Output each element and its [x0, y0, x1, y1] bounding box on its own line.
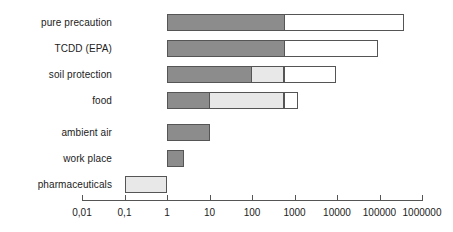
x-axis-tick-label: 10000	[323, 207, 351, 219]
x-axis-tick-label: 1	[164, 207, 170, 219]
x-axis-tick	[337, 195, 338, 201]
bar-segment-light	[209, 92, 285, 109]
x-axis-tick	[125, 195, 126, 201]
x-axis-tick	[82, 195, 83, 201]
bar-segment-open	[284, 40, 378, 57]
x-axis-tick	[252, 195, 253, 201]
bar-segment-light	[251, 66, 284, 83]
bar-segment-dark	[167, 92, 210, 109]
bar-row	[0, 14, 453, 31]
bar-segment-dark	[167, 14, 285, 31]
x-axis-tick-label: 100000	[363, 207, 396, 219]
x-axis-tick	[422, 195, 423, 201]
log-range-bar-chart: pure precautionTCDD (EPA)soil protection…	[0, 0, 453, 232]
bar-row	[0, 150, 453, 167]
bar-segment-light	[125, 176, 168, 193]
x-axis-tick-label: 10	[204, 207, 215, 219]
bar-segment-dark	[167, 124, 210, 141]
bar-segment-dark	[167, 150, 184, 167]
x-axis-tick-label: 1000	[283, 207, 305, 219]
bar-segment-dark	[167, 66, 252, 83]
x-axis-tick-label: 100	[244, 207, 261, 219]
bar-row	[0, 124, 453, 141]
x-axis-tick-label: 1000000	[403, 207, 442, 219]
bar-row	[0, 66, 453, 83]
bar-segment-open	[284, 92, 298, 109]
bar-segment-open	[284, 14, 404, 31]
bar-segment-dark	[167, 40, 285, 57]
bar-row	[0, 92, 453, 109]
x-axis-tick	[380, 195, 381, 201]
x-axis-tick	[295, 195, 296, 201]
x-axis-tick	[210, 195, 211, 201]
bar-segment-open	[284, 66, 336, 83]
x-axis-tick-label: 0,01	[72, 207, 91, 219]
bar-row	[0, 176, 453, 193]
bar-row	[0, 40, 453, 57]
x-axis-tick	[167, 195, 168, 201]
x-axis-tick-label: 0,1	[118, 207, 132, 219]
